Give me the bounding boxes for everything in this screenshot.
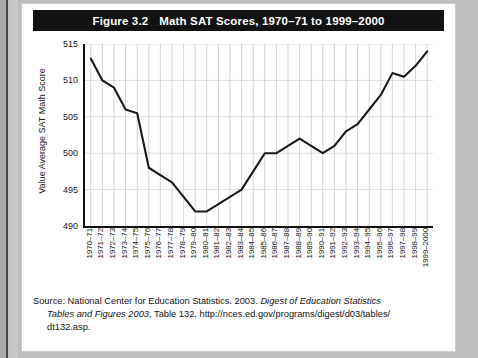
y-tick-495: 495 bbox=[63, 185, 78, 195]
source-line-1: Source: National Center for Education St… bbox=[33, 295, 438, 308]
source-line-3: dt132.asp. bbox=[33, 321, 438, 334]
x-tick-1990-91: 1990–91 bbox=[315, 228, 327, 286]
x-tick-1986-87: 1986–87 bbox=[269, 228, 281, 286]
x-tick-label: 1979–80 bbox=[189, 228, 198, 258]
x-tick-label: 1993–94 bbox=[351, 228, 360, 258]
x-tick-1998-99: 1998–99 bbox=[408, 228, 420, 286]
x-tick-1991-92: 1991–92 bbox=[327, 228, 339, 286]
figure-title: Math SAT Scores, 1970–71 to 1999–2000 bbox=[159, 15, 384, 27]
y-tick-515: 515 bbox=[63, 39, 78, 49]
x-tick-label: 1982–83 bbox=[223, 228, 232, 258]
x-tick-label: 1980–81 bbox=[200, 228, 209, 258]
x-tick-label: 1985–86 bbox=[258, 228, 267, 258]
x-tick-1978-79: 1978–79 bbox=[176, 228, 188, 286]
x-tick-1996-97: 1996–97 bbox=[385, 228, 397, 286]
x-tick-label: 1988–89 bbox=[293, 228, 302, 258]
source-line-3-text: dt132.asp. bbox=[47, 322, 90, 332]
x-tick-label: 1972–73 bbox=[107, 228, 116, 258]
x-tick-label: 1971–72 bbox=[96, 228, 105, 258]
x-axis-tick-labels: 1970–711971–721972–731973–741974–751975–… bbox=[83, 228, 433, 288]
x-tick-1970-71: 1970–71 bbox=[83, 228, 95, 286]
figure-number: Figure 3.2 bbox=[92, 15, 148, 27]
x-tick-1981-82: 1981–82 bbox=[211, 228, 223, 286]
y-axis-label-text: Value Average SAT Math Score bbox=[37, 68, 47, 193]
x-tick-1984-85: 1984–85 bbox=[245, 228, 257, 286]
y-axis-label: Value Average SAT Math Score bbox=[35, 36, 49, 226]
x-tick-label: 1997–98 bbox=[397, 228, 406, 258]
x-tick-1989-90: 1989–90 bbox=[303, 228, 315, 286]
source-line-2-italic: Tables and Figures 2003 bbox=[47, 309, 149, 319]
x-tick-label: 1973–74 bbox=[119, 228, 128, 258]
x-tick-label: 1989–90 bbox=[305, 228, 314, 258]
x-tick-1987-88: 1987–88 bbox=[280, 228, 292, 286]
x-tick-1985-86: 1985–86 bbox=[257, 228, 269, 286]
y-axis-tick-labels: 490495500505510515 bbox=[51, 36, 81, 226]
x-tick-1994-95: 1994–95 bbox=[361, 228, 373, 286]
x-tick-label: 1999–2000 bbox=[421, 228, 430, 267]
x-tick-label: 1978–79 bbox=[177, 228, 186, 258]
x-tick-label: 1974–75 bbox=[131, 228, 140, 258]
x-tick-1999-2000: 1999–2000 bbox=[419, 228, 431, 286]
x-tick-1988-89: 1988–89 bbox=[292, 228, 304, 286]
figure-card: Figure 3.2 Math SAT Scores, 1970–71 to 1… bbox=[22, 4, 455, 351]
x-tick-label: 1983–84 bbox=[235, 228, 244, 258]
x-tick-1974-75: 1974–75 bbox=[129, 228, 141, 286]
x-tick-1983-84: 1983–84 bbox=[234, 228, 246, 286]
x-tick-label: 1991–92 bbox=[328, 228, 337, 258]
source-line-1-text: Source: National Center for Education St… bbox=[33, 296, 260, 306]
x-tick-label: 1990–91 bbox=[316, 228, 325, 258]
x-tick-label: 1995–96 bbox=[374, 228, 383, 258]
line-chart-svg bbox=[85, 44, 433, 226]
x-tick-label: 1981–82 bbox=[212, 228, 221, 258]
x-tick-1977-78: 1977–78 bbox=[164, 228, 176, 286]
x-tick-label: 1992–93 bbox=[339, 228, 348, 258]
x-tick-1973-74: 1973–74 bbox=[118, 228, 130, 286]
x-tick-label: 1977–78 bbox=[165, 228, 174, 258]
x-tick-label: 1987–88 bbox=[281, 228, 290, 258]
x-tick-1995-96: 1995–96 bbox=[373, 228, 385, 286]
x-tick-label: 1986–87 bbox=[270, 228, 279, 258]
x-tick-1971-72: 1971–72 bbox=[95, 228, 107, 286]
plot-wrapper: 490495500505510515 1970–711971–721972–73… bbox=[51, 36, 444, 288]
y-tick-505: 505 bbox=[63, 112, 78, 122]
sat-math-score-line bbox=[91, 51, 427, 211]
x-tick-label: 1996–97 bbox=[386, 228, 395, 258]
x-tick-1997-98: 1997–98 bbox=[396, 228, 408, 286]
x-tick-1975-76: 1975–76 bbox=[141, 228, 153, 286]
x-tick-1979-80: 1979–80 bbox=[187, 228, 199, 286]
x-tick-1972-73: 1972–73 bbox=[106, 228, 118, 286]
x-tick-1982-83: 1982–83 bbox=[222, 228, 234, 286]
chart-area: Value Average SAT Math Score 49049550050… bbox=[33, 36, 444, 288]
x-tick-label: 1975–76 bbox=[142, 228, 151, 258]
y-tick-490: 490 bbox=[63, 221, 78, 231]
x-tick-label: 1998–99 bbox=[409, 228, 418, 258]
page-background: Figure 3.2 Math SAT Scores, 1970–71 to 1… bbox=[0, 0, 478, 358]
x-tick-1976-77: 1976–77 bbox=[153, 228, 165, 286]
source-note: Source: National Center for Education St… bbox=[33, 295, 438, 335]
source-line-2: Tables and Figures 2003, Table 132. http… bbox=[33, 308, 438, 321]
x-tick-label: 1984–85 bbox=[247, 228, 256, 258]
source-line-1-italic: Digest of Education Statistics bbox=[260, 296, 380, 306]
x-tick-label: 1970–71 bbox=[84, 228, 93, 258]
x-tick-1980-81: 1980–81 bbox=[199, 228, 211, 286]
y-tick-510: 510 bbox=[63, 75, 78, 85]
x-tick-label: 1994–95 bbox=[363, 228, 372, 258]
x-tick-label: 1976–77 bbox=[154, 228, 163, 258]
x-tick-1992-93: 1992–93 bbox=[338, 228, 350, 286]
y-tick-500: 500 bbox=[63, 148, 78, 158]
source-line-2-text: , Table 132. http://nces.ed.gov/programs… bbox=[149, 309, 390, 319]
x-tick-1993-94: 1993–94 bbox=[350, 228, 362, 286]
figure-title-banner: Figure 3.2 Math SAT Scores, 1970–71 to 1… bbox=[33, 10, 444, 31]
plot-region bbox=[83, 44, 433, 228]
